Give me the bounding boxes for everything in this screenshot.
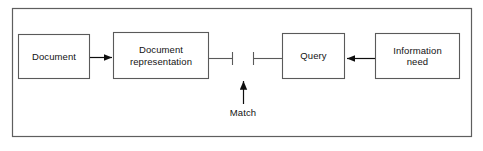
node-box-document xyxy=(19,35,90,79)
node-box-query xyxy=(283,34,345,79)
node-box-document-representation xyxy=(114,33,209,79)
diagram-canvas xyxy=(0,0,483,151)
ir-matching-diagram: Document Document representation Query I… xyxy=(0,0,483,151)
node-box-information-need xyxy=(376,34,460,79)
